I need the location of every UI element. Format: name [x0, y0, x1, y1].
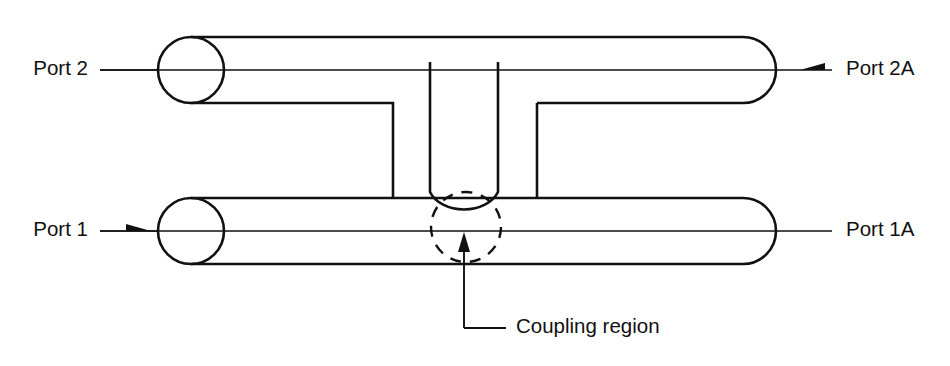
- port-2a-group: Port 2A: [770, 56, 915, 79]
- u-bend-path: [430, 62, 498, 209]
- upper-waveguide: [100, 37, 776, 197]
- port-2a-label: Port 2A: [846, 56, 915, 79]
- port-1a-label: Port 1A: [846, 217, 915, 240]
- coupling-region-label: Coupling region: [516, 314, 660, 337]
- port-1-group: Port 1: [33, 217, 158, 240]
- port-2a-arrow-icon: [800, 63, 825, 70]
- upper-guide-bottom-edge-left: [191, 103, 393, 197]
- waveguide-schematic-svg: Port 2 Port 1 Port 2A Port 1A Coupling r…: [0, 0, 950, 366]
- waveguide-diagram: Port 2 Port 1 Port 2A Port 1A Coupling r…: [0, 0, 950, 366]
- port-1-arrow-icon: [126, 224, 151, 231]
- port-1-label: Port 1: [33, 217, 88, 240]
- port-1a-group: Port 1A: [770, 217, 915, 240]
- port-2-label: Port 2: [33, 56, 88, 79]
- u-bend-branch: [430, 62, 498, 209]
- port-2-group: Port 2: [33, 56, 158, 79]
- callout-arrow-icon: [458, 232, 470, 252]
- coupling-region-callout: Coupling region: [458, 232, 660, 337]
